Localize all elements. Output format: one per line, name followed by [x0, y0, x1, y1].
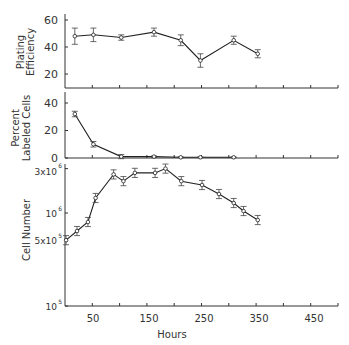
svg-text:Percent: Percent: [10, 109, 21, 147]
chart-canvas: Plating Efficiency Percent Labeled Cells…: [0, 0, 349, 345]
top-yticks: 60 40 20: [44, 14, 58, 81]
middle-ylabel: Percent Labeled Cells: [10, 95, 32, 162]
svg-text:6: 6: [58, 205, 62, 212]
svg-text:250: 250: [194, 313, 213, 324]
top-ylabel: Plating Efficiency: [15, 28, 36, 76]
bottom-ylabel: Cell Number: [21, 198, 32, 261]
svg-text:5x10: 5x10: [34, 236, 57, 246]
svg-text:5: 5: [58, 232, 62, 239]
svg-text:10: 10: [46, 209, 58, 219]
svg-text:Cell Number: Cell Number: [21, 198, 32, 261]
svg-text:0: 0: [51, 152, 58, 165]
figure: Plating Efficiency Percent Labeled Cells…: [0, 0, 349, 345]
x-tick-labels: 50 150 250 350 450: [87, 313, 324, 324]
series: [63, 28, 261, 245]
svg-text:Labeled Cells: Labeled Cells: [21, 95, 32, 162]
svg-text:60: 60: [44, 14, 58, 27]
svg-text:50: 50: [87, 313, 100, 324]
svg-text:20: 20: [44, 124, 58, 137]
svg-text:20: 20: [44, 68, 58, 81]
bottom-yticks: 3x10 6 10 6 5x10 5 10 5: [34, 162, 62, 312]
svg-text:40: 40: [44, 41, 58, 54]
svg-text:6: 6: [58, 162, 62, 169]
svg-text:3x10: 3x10: [34, 167, 57, 177]
svg-text:350: 350: [249, 313, 268, 324]
axes: [65, 14, 338, 306]
svg-text:150: 150: [139, 313, 158, 324]
svg-text:450: 450: [304, 313, 323, 324]
svg-text:5: 5: [58, 298, 62, 305]
svg-text:Efficiency: Efficiency: [25, 28, 36, 76]
x-axis-label: Hours: [157, 329, 186, 340]
svg-text:40: 40: [44, 97, 58, 110]
svg-text:10: 10: [46, 302, 58, 312]
middle-yticks: 40 20 0: [44, 97, 58, 165]
